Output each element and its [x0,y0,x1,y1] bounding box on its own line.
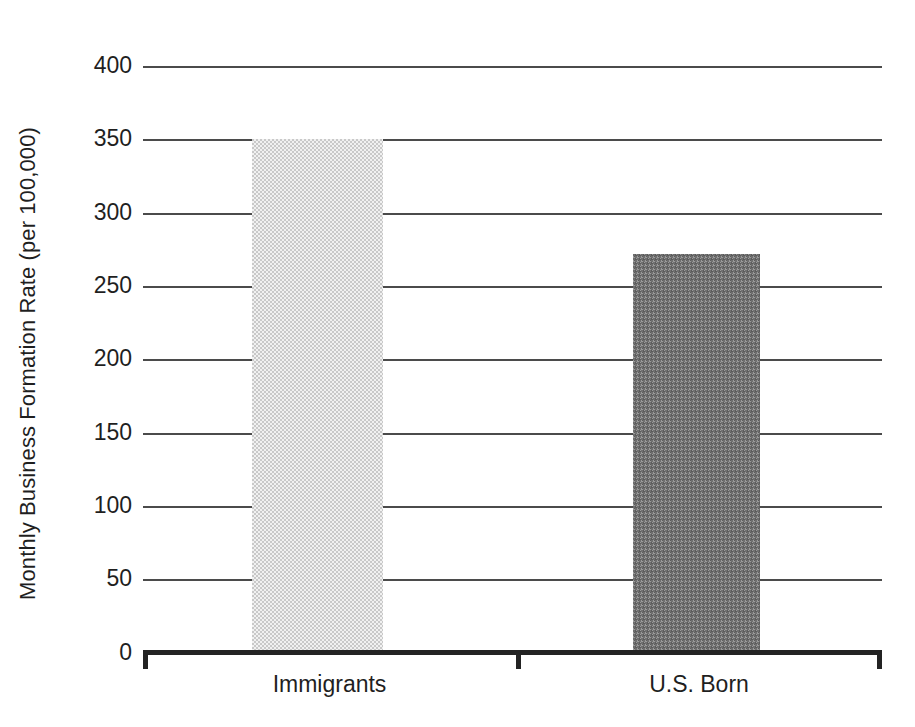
y-tick-label-150: 150 [58,421,132,444]
y-tick-label-250: 250 [58,274,132,297]
y-axis-tick-labels: 400 350 300 250 200 150 100 50 0 [48,66,132,652]
x-tick-label-immigrants: Immigrants [143,672,516,697]
y-tick-label-100: 100 [58,494,132,517]
x-axis-tick-right [877,650,882,669]
x-tick-label-us-born: U.S. Born [516,672,882,697]
y-tick-label-300: 300 [58,201,132,224]
y-tick-label-200: 200 [58,347,132,370]
y-tick-label-350: 350 [58,127,132,150]
y-tick-label-400: 400 [58,54,132,77]
bar-chart-figure: Monthly Business Formation Rate (per 100… [0,0,915,727]
bar-immigrants[interactable] [252,139,383,652]
x-axis-tick-left [143,650,148,669]
x-axis-line [143,650,882,655]
y-tick-label-0: 0 [58,641,132,664]
gridline-400 [143,66,882,68]
x-axis-tick-middle [516,650,521,669]
plot-area [143,66,882,652]
bar-us-born[interactable] [633,254,760,652]
y-tick-label-50: 50 [58,567,132,590]
